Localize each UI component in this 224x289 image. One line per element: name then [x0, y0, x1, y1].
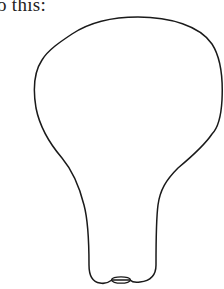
bulb-outline-figure — [0, 0, 224, 289]
bulb-outline — [34, 17, 222, 283]
